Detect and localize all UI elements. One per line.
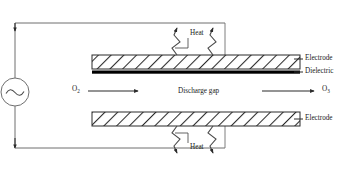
dbd-ozone-generator-diagram: Heat Heat Electrode Dielectric Electrode… — [0, 0, 348, 179]
electrode-label-bottom: Electrode — [305, 115, 333, 122]
discharge-gap-label: Discharge gap — [178, 88, 219, 95]
dielectric-label: Dielectric — [305, 68, 333, 75]
ac-source-icon — [1, 78, 29, 106]
wavy-arrow-icon — [208, 126, 216, 153]
top-electrode — [92, 55, 300, 69]
gas-outlet-subscript: 3 — [327, 88, 330, 94]
circuit-wiring — [15, 23, 225, 148]
gas-inlet-subscript: 2 — [77, 88, 80, 94]
gas-inlet-label: O2 — [72, 86, 80, 93]
dielectric-layer — [92, 71, 300, 74]
diagram-canvas — [0, 0, 348, 179]
heat-label-leader-top — [175, 38, 188, 48]
electrode-label-top: Electrode — [305, 55, 333, 62]
wavy-arrow-icon — [172, 126, 180, 153]
bottom-electrode — [92, 112, 300, 126]
wavy-arrow-icon — [172, 28, 180, 55]
gas-outlet-label: O3 — [322, 86, 330, 93]
heat-label-bottom: Heat — [190, 144, 204, 151]
heat-label-top: Heat — [190, 30, 204, 37]
heat-label-leader-bottom — [175, 133, 188, 143]
wavy-arrow-icon — [208, 28, 216, 55]
